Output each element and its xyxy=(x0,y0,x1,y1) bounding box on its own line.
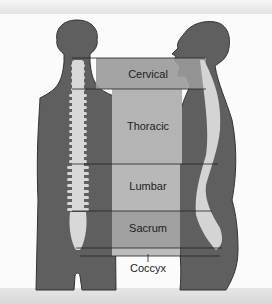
vertebra-process xyxy=(71,70,85,73)
vertebra-process xyxy=(69,148,87,151)
vertebra-process xyxy=(69,136,87,139)
vertebra-process xyxy=(67,190,89,193)
vertebra-process xyxy=(69,124,87,127)
vertebra-process xyxy=(69,130,87,133)
vertebra-process xyxy=(67,184,89,187)
vertebra-process xyxy=(67,202,89,205)
label-cervical: Cervical xyxy=(108,68,188,80)
vertebra-process xyxy=(69,100,87,103)
vertebra-process xyxy=(67,166,89,169)
label-sacrum: Sacrum xyxy=(108,222,188,234)
label-thoracic: Thoracic xyxy=(108,120,188,132)
label-lumbar: Lumbar xyxy=(108,180,188,192)
vertebra-process xyxy=(69,154,87,157)
vertebra-process xyxy=(69,118,87,121)
region-band-coccyx xyxy=(112,248,180,256)
label-coccyx: Coccyx xyxy=(108,262,188,274)
vertebra-process xyxy=(69,112,87,115)
vertebra-process xyxy=(71,64,85,67)
vertebra-process xyxy=(67,178,89,181)
vertebra-process xyxy=(67,208,89,211)
vertebra-process xyxy=(69,94,87,97)
vertebra-process xyxy=(71,76,85,79)
vertebra-process xyxy=(69,142,87,145)
vertebra-process xyxy=(67,172,89,175)
vertebra-process xyxy=(69,160,87,163)
vertebra-process xyxy=(71,82,85,85)
vertebra-process xyxy=(67,196,89,199)
spine-diagram xyxy=(0,0,272,304)
vertebra-process xyxy=(71,88,85,91)
vertebra-process xyxy=(69,106,87,109)
